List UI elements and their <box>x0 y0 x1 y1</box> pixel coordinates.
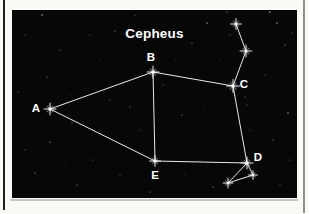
bg-star-41 <box>100 60 101 61</box>
star-M2 <box>245 50 248 53</box>
bg-star-8 <box>284 44 285 45</box>
star-label-C: C <box>240 78 248 90</box>
bg-star-15 <box>272 139 273 140</box>
bg-star-39 <box>280 185 281 186</box>
bg-star-40 <box>220 60 221 61</box>
bg-star-20 <box>34 172 35 173</box>
bg-star-23 <box>149 191 150 192</box>
constellation-line-E-D <box>155 161 247 163</box>
star-label-A: A <box>32 102 40 114</box>
bg-star-24 <box>212 186 213 187</box>
bg-star-5 <box>269 11 270 12</box>
bg-star-34 <box>25 150 26 151</box>
constellation-line-A-E <box>50 109 155 161</box>
page-right-rule <box>303 0 305 213</box>
bg-star-48 <box>205 110 206 111</box>
bg-star-42 <box>70 95 71 96</box>
bg-star-43 <box>135 15 136 16</box>
bg-star-14 <box>287 112 288 113</box>
constellation-title: Cepheus <box>12 26 297 41</box>
star-A <box>48 107 51 110</box>
bg-star-29 <box>140 130 141 131</box>
book-page: Cepheus ABCDE <box>0 0 309 214</box>
star-label-D: D <box>254 151 262 163</box>
bg-star-37 <box>265 75 266 76</box>
page-left-rule <box>3 0 5 210</box>
star-E <box>153 159 156 162</box>
star-M3 <box>252 174 255 177</box>
bg-star-36 <box>185 175 186 176</box>
bg-star-21 <box>76 184 77 185</box>
figure-shadow <box>10 199 298 201</box>
bg-star-1 <box>41 14 42 15</box>
bg-star-28 <box>110 100 111 101</box>
star-D <box>245 161 248 164</box>
bg-star-13 <box>181 114 182 115</box>
star-C <box>231 84 234 87</box>
bg-star-3 <box>206 22 207 23</box>
bg-star-35 <box>120 175 121 176</box>
bg-star-25 <box>200 160 201 161</box>
star-M4 <box>227 182 230 185</box>
bg-star-47 <box>65 165 66 166</box>
bg-star-12 <box>129 106 130 107</box>
bg-star-46 <box>30 60 31 61</box>
star-label-B: B <box>147 51 155 63</box>
constellation-line-C-D <box>233 86 247 163</box>
bg-star-11 <box>163 85 164 86</box>
star-B <box>151 70 154 73</box>
star-label-E: E <box>151 169 159 181</box>
bg-star-26 <box>245 97 246 98</box>
bg-star-50 <box>175 60 176 61</box>
bg-star-7 <box>276 22 277 23</box>
bg-star-31 <box>60 50 61 51</box>
bg-star-19 <box>49 141 50 142</box>
bg-star-27 <box>247 105 248 106</box>
bg-star-4 <box>226 11 227 12</box>
bg-star-22 <box>93 160 94 161</box>
bg-star-45 <box>250 130 251 131</box>
constellation-line-B-E <box>153 72 155 161</box>
bg-star-16 <box>46 76 47 77</box>
starfield: Cepheus ABCDE <box>12 10 297 198</box>
constellation-line-B-C <box>153 72 233 86</box>
constellation-line-A-B <box>50 72 153 109</box>
bg-star-38 <box>290 160 291 161</box>
bg-star-10 <box>191 42 192 43</box>
bg-star-17 <box>18 92 19 93</box>
bg-star-30 <box>170 140 171 141</box>
bg-star-18 <box>71 122 72 123</box>
